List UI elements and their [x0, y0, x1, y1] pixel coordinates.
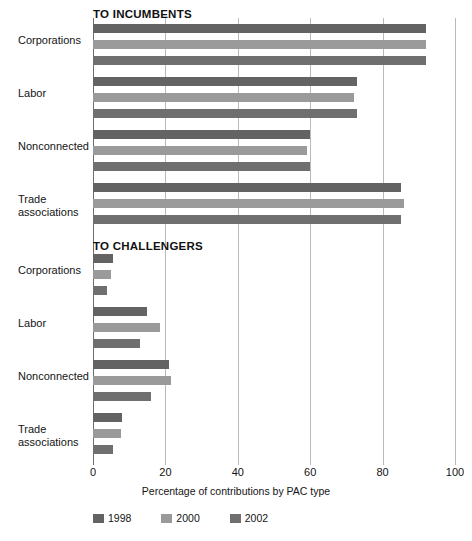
gridline-80 — [383, 18, 384, 465]
category-label-nonconnected: Nonconnected — [18, 140, 90, 153]
legend-item-1998[interactable]: 1998 — [93, 512, 131, 524]
x-tick-label-40: 40 — [232, 466, 244, 478]
bar-to-incumbents-trade-associations-1998 — [93, 183, 401, 192]
category-label-nonconnected: Nonconnected — [18, 370, 90, 383]
x-tick-label-100: 100 — [446, 466, 464, 478]
bar-to-challengers-trade-associations-2002 — [93, 445, 113, 454]
bar-to-incumbents-nonconnected-2002 — [93, 162, 310, 171]
category-label-corporations: Corporations — [18, 34, 90, 47]
bar-to-challengers-labor-2002 — [93, 339, 140, 348]
legend-label-2002: 2002 — [245, 512, 268, 524]
category-label-corporations: Corporations — [18, 264, 90, 277]
bar-to-challengers-labor-2000 — [93, 323, 160, 332]
bar-to-challengers-labor-1998 — [93, 307, 147, 316]
x-tick-label-20: 20 — [159, 466, 171, 478]
gridline-100 — [455, 18, 456, 465]
bar-to-challengers-corporations-2000 — [93, 270, 111, 279]
bar-to-challengers-nonconnected-2000 — [93, 376, 171, 385]
bar-to-incumbents-labor-2000 — [93, 93, 354, 102]
legend-swatch-2000 — [161, 514, 172, 523]
bar-to-incumbents-corporations-1998 — [93, 24, 426, 33]
bar-to-incumbents-corporations-2002 — [93, 56, 426, 65]
legend-swatch-1998 — [93, 514, 104, 523]
bar-to-incumbents-labor-2002 — [93, 109, 357, 118]
category-label-labor: Labor — [18, 317, 90, 330]
legend-swatch-2002 — [230, 514, 241, 523]
x-tick-label-60: 60 — [304, 466, 316, 478]
bar-to-incumbents-nonconnected-2000 — [93, 146, 307, 155]
x-tick-label-0: 0 — [90, 466, 96, 478]
bar-to-challengers-corporations-1998 — [93, 254, 113, 263]
bar-to-challengers-nonconnected-1998 — [93, 360, 169, 369]
panel-title-challengers: TO CHALLENGERS — [93, 240, 203, 252]
category-label-trade-associations: Trade associations — [18, 193, 90, 218]
legend-item-2000[interactable]: 2000 — [161, 512, 199, 524]
bar-to-challengers-nonconnected-2002 — [93, 392, 151, 401]
panel-title-incumbents: TO INCUMBENTS — [93, 8, 192, 20]
bar-to-challengers-trade-associations-1998 — [93, 413, 122, 422]
bar-to-incumbents-trade-associations-2002 — [93, 215, 401, 224]
x-axis-title: Percentage of contributions by PAC type — [0, 485, 472, 497]
bar-to-incumbents-nonconnected-1998 — [93, 130, 310, 139]
bar-to-incumbents-labor-1998 — [93, 77, 357, 86]
category-label-trade-associations: Trade associations — [18, 423, 90, 448]
legend-label-2000: 2000 — [176, 512, 199, 524]
bar-to-challengers-trade-associations-2000 — [93, 429, 121, 438]
chart-legend: 199820002002 — [93, 512, 268, 524]
bar-to-incumbents-trade-associations-2000 — [93, 199, 404, 208]
x-tick-label-80: 80 — [376, 466, 388, 478]
legend-item-2002[interactable]: 2002 — [230, 512, 268, 524]
legend-label-1998: 1998 — [108, 512, 131, 524]
pac-contributions-chart: TO INCUMBENTS TO CHALLENGERS Corporation… — [0, 0, 472, 541]
bar-to-challengers-corporations-2002 — [93, 286, 107, 295]
bar-to-incumbents-corporations-2000 — [93, 40, 426, 49]
category-label-labor: Labor — [18, 87, 90, 100]
